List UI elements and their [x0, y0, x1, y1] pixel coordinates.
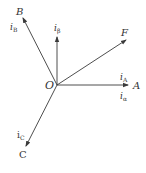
- current-ib-label: iB: [10, 22, 18, 33]
- vector-b-arrow: [23, 18, 57, 85]
- vector-c-arrow: [26, 85, 57, 146]
- current-ibeta-label: iβ: [54, 23, 61, 35]
- current-ia-label: iA: [120, 72, 128, 83]
- current-ialpha-label: iα: [120, 91, 127, 102]
- current-ic-label: iC: [17, 130, 25, 141]
- axis-b-label: B: [15, 6, 23, 17]
- origin-label: O: [45, 79, 54, 92]
- vector-diagram: O B iB iβ F iA A iα iC C: [0, 0, 146, 173]
- vector-f-arrow: [57, 40, 126, 85]
- vector-f-label: F: [120, 27, 129, 38]
- axis-c-label: C: [19, 149, 27, 160]
- axis-a-label: A: [132, 80, 140, 91]
